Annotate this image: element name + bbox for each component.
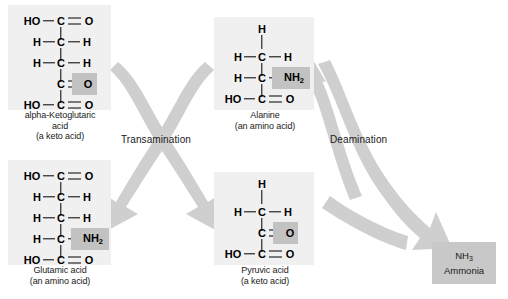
atom-O-a3: O [286,94,295,105]
atom-H-g3l: H [33,213,41,224]
diagram-canvas: HO C O H C H H C H C O [0,0,508,299]
molecule-name-alpha-ketoglutaric-line2: acid [4,121,116,132]
atom-C-g5: C [57,255,65,266]
molecule-panel-alpha-ketoglutaric-acid: HO C O H C H H C H C O [8,5,111,110]
atom-HO-g5: HO [24,255,41,266]
atom-C-g3: C [57,213,65,224]
atom-C-p1: C [258,207,266,218]
atom-O-1: O [85,16,94,27]
atom-H-g4l: H [33,234,41,245]
molecule-name-glutamic: Glutamic acid [4,265,116,276]
arrow-ketoglutaric-to-pyruvic [110,62,220,232]
atom-HO-p3: HO [225,249,242,260]
atom-O-g1: O [85,171,94,182]
bond-g2r [68,196,80,197]
ammonia-name: Ammonia [444,264,484,277]
atom-C-g2: C [57,192,65,203]
molecule-class-alanine: (an amino acid) [210,121,320,132]
bond-g2l [43,196,55,197]
bond-5l [43,104,54,105]
molecule-class-pyruvic: (a keto acid) [210,276,320,287]
atom-H-p1r: H [284,207,292,218]
molecule-panel-pyruvic-acid: H H C H C O HO C O [214,172,314,265]
bond-g5r-double [68,257,81,264]
bond-2r [68,41,80,42]
atom-O-4: O [84,79,93,90]
bond-pcap-p1 [261,190,262,204]
atom-H-2l: H [234,73,242,84]
atom-C-a2: C [258,73,266,84]
atom-O-5: O [85,100,94,111]
bond-a2l [244,77,256,78]
ammonia-formula-sub: 3 [469,254,473,261]
atom-H-g3r: H [83,213,91,224]
atom-H-1r: H [284,52,292,63]
structure-pyruvic-acid: H H C H C O HO C O [214,172,314,265]
bond-a1l [244,56,256,57]
atom-HO-a3: HO [225,94,242,105]
bond-p1l [244,211,256,212]
atom-O-p3: O [286,249,295,260]
caption-alpha-ketoglutaric-acid: alpha-Ketoglutaric acid (a keto acid) [4,110,116,142]
bond-5r-double [68,102,81,109]
atom-HO-5: HO [24,100,41,111]
bond-a3l [244,98,255,99]
bond-1r-double [68,18,81,25]
molecule-class-glutamic: (an amino acid) [4,276,116,287]
product-box-ammonia: NH3 Ammonia [432,242,496,284]
atom-C-1: C [57,16,65,27]
process-label-deamination: Deamination [330,134,387,145]
atom-C-5: C [57,100,65,111]
bond-3l [43,62,55,63]
atom-C-g1: C [57,171,65,182]
molecule-name-alpha-ketoglutaric: alpha-Ketoglutaric [4,110,116,121]
atom-H-g2r: H [83,192,91,203]
ammonia-formula: NH3 [455,249,473,265]
ammonia-formula-text: NH [455,250,469,261]
bond-g4l [43,238,55,239]
structure-glutamic-acid: HO C O H C H H C H H C NH2 [8,160,111,265]
atom-C-a3: C [258,94,266,105]
atom-O-p2: O [286,228,295,239]
atom-C-3: C [57,58,65,69]
arrow-pyruvic-to-ammonia [322,196,408,250]
bond-a3r-double [269,96,282,103]
atom-C-g4: C [57,234,65,245]
structure-alpha-ketoglutaric-acid: HO C O H C H H C H C O [8,5,111,110]
atom-H-3r: H [83,58,91,69]
molecule-name-pyruvic: Pyruvic acid [210,265,320,276]
atom-NH2: NH2 [284,72,304,84]
bond-2l [43,41,55,42]
molecule-panel-alanine: H H C H H C NH2 HO C O [214,17,314,110]
bond-p3r-double [269,251,282,258]
atom-C-p3: C [258,249,266,260]
bond-3r [68,62,80,63]
bond-p1r [269,211,281,212]
atom-H-2l: H [33,37,41,48]
atom-H-2r: H [83,37,91,48]
arrow-alanine-to-ammonia [318,60,452,250]
bond-cap-c1 [261,35,262,49]
atom-HO-g1: HO [24,171,41,182]
atom-C-a1: C [258,52,266,63]
bond-1l [43,20,54,21]
caption-alanine: Alanine (an amino acid) [210,110,320,131]
atom-H-g2l: H [33,192,41,203]
bond-g1r-double [68,173,81,180]
atom-NH2-glutamic: NH2 [83,233,103,245]
atom-O-g5: O [85,255,94,266]
bond-g5l [43,259,54,260]
caption-glutamic-acid: Glutamic acid (an amino acid) [4,265,116,286]
caption-pyruvic-acid: Pyruvic acid (a keto acid) [210,265,320,286]
molecule-panel-glutamic-acid: HO C O H C H H C H H C NH2 [8,160,111,265]
molecule-class-alpha-ketoglutaric: (a keto acid) [4,131,116,142]
bond-a1r [269,56,281,57]
atom-C-4: C [57,79,65,90]
atom-H-3l: H [33,58,41,69]
bond-p3l [244,253,255,254]
atom-HO-1: HO [24,16,41,27]
atom-H-cap: H [258,24,266,35]
atom-C-2: C [57,37,65,48]
atom-H-cap-pyruvic: H [258,179,266,190]
atom-H-p1l: H [234,207,242,218]
